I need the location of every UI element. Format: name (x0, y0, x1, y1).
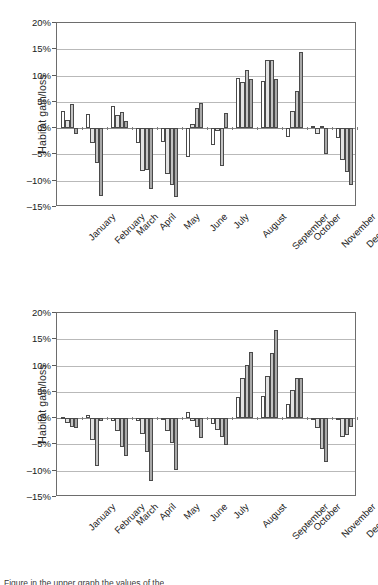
bar (149, 128, 153, 188)
y-tick-label: 15% (32, 43, 51, 54)
bar-group (332, 313, 357, 495)
y-tick-label: 20% (32, 307, 51, 318)
bar (249, 352, 253, 418)
x-axis-label: June (207, 211, 229, 233)
bar-group (57, 313, 82, 495)
upper-y-axis-title: Habitat gain/loss (36, 74, 48, 153)
bar-group (157, 23, 182, 205)
bar-group (207, 313, 232, 495)
bar (199, 418, 203, 438)
y-tick-label: –10% (27, 464, 51, 475)
y-tick-label: 5% (37, 385, 51, 396)
bar-group (282, 23, 307, 205)
bar (224, 113, 228, 128)
y-tick-mark (52, 443, 56, 444)
bar (274, 79, 278, 128)
y-tick-mark (52, 153, 56, 154)
upper-plot-area (56, 22, 356, 206)
bar (174, 418, 178, 470)
lower-y-axis-title: Habitat gain/loss (36, 364, 48, 443)
x-axis-label: April (156, 501, 177, 522)
bar-group (82, 23, 107, 205)
bar (199, 103, 203, 128)
bar-group (82, 313, 107, 495)
bar (349, 128, 353, 185)
y-tick-label: –10% (27, 174, 51, 185)
bar-group (307, 23, 332, 205)
bar-group (132, 23, 157, 205)
bar (149, 418, 153, 481)
y-tick-label: –15% (27, 491, 51, 502)
bar (249, 79, 253, 128)
bar-group (207, 23, 232, 205)
bar (99, 128, 103, 196)
y-tick-label: 10% (32, 359, 51, 370)
y-tick-mark (52, 206, 56, 207)
y-tick-label: –5% (32, 148, 51, 159)
bar (70, 104, 74, 128)
category-tick (357, 417, 358, 420)
bar-group (107, 313, 132, 495)
bar-group (307, 313, 332, 495)
bar-group (57, 23, 82, 205)
upper-y-axis-title-wrap: Habitat gain/loss (0, 22, 18, 206)
y-tick-label: 15% (32, 333, 51, 344)
bar-group (257, 313, 282, 495)
x-axis-label: July (230, 501, 250, 521)
y-tick-mark (52, 470, 56, 471)
bar-group (332, 23, 357, 205)
bar-group (107, 23, 132, 205)
y-tick-mark (52, 101, 56, 102)
y-tick-label: 0% (37, 412, 51, 423)
y-tick-mark (52, 417, 56, 418)
bar (224, 418, 228, 445)
bar-group (257, 23, 282, 205)
upper-chart: Habitat gain/loss 20%15%10%5%0%–5%–10%–1… (0, 0, 378, 290)
x-axis-label: May (181, 211, 201, 231)
bar-group (182, 313, 207, 495)
bar-group (232, 313, 257, 495)
category-tick (357, 127, 358, 130)
y-tick-label: 5% (37, 95, 51, 106)
lower-plot-area (56, 312, 356, 496)
bar (186, 128, 190, 156)
y-tick-mark (52, 338, 56, 339)
bar (95, 418, 99, 466)
bar (74, 418, 78, 427)
bar (286, 128, 290, 137)
y-tick-label: 10% (32, 69, 51, 80)
x-axis-label: April (156, 211, 177, 232)
bar (349, 418, 353, 427)
y-tick-label: –5% (32, 438, 51, 449)
bar-group (282, 313, 307, 495)
bar (299, 52, 303, 128)
y-tick-mark (52, 312, 56, 313)
bar (74, 128, 78, 134)
bar (174, 128, 178, 197)
x-axis-label: August (259, 211, 288, 240)
lower-y-axis-title-wrap: Habitat gain/loss (0, 312, 18, 496)
y-tick-mark (52, 75, 56, 76)
y-tick-mark (52, 180, 56, 181)
bar (99, 418, 103, 421)
bar (124, 418, 128, 456)
bar (220, 128, 224, 166)
x-axis-label: August (259, 501, 288, 530)
bar-group (132, 313, 157, 495)
x-axis-label: May (181, 501, 201, 521)
bar (324, 418, 328, 462)
y-tick-label: –15% (27, 201, 51, 212)
y-tick-label: 0% (37, 122, 51, 133)
bar (274, 330, 278, 418)
x-axis-label: June (207, 501, 229, 523)
lower-chart: Habitat gain/loss 20%15%10%5%0%–5%–10%–1… (0, 290, 378, 585)
bar-group (182, 23, 207, 205)
figure-page: Habitat gain/loss 20%15%10%5%0%–5%–10%–1… (0, 0, 378, 585)
y-tick-mark (52, 48, 56, 49)
bar-group (157, 313, 182, 495)
bar (299, 378, 303, 418)
y-tick-mark (52, 391, 56, 392)
bar-group (232, 23, 257, 205)
y-tick-mark (52, 496, 56, 497)
x-axis-label: July (230, 211, 250, 231)
